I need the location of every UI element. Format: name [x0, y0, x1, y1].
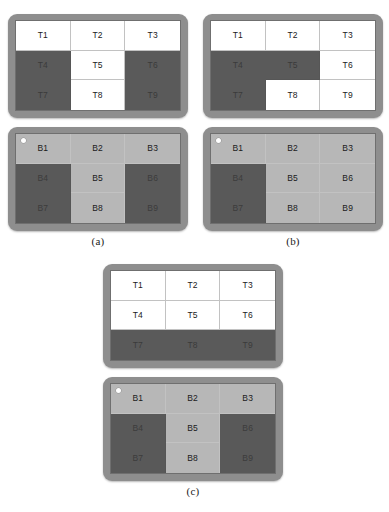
cell-t3[interactable]: T3 [125, 21, 180, 51]
cell-t7[interactable]: T7 [211, 80, 266, 110]
cell-t2[interactable]: T2 [266, 21, 321, 51]
cell-t9[interactable]: T9 [320, 80, 375, 110]
cell-b2[interactable]: B2 [166, 384, 221, 414]
cell-t1[interactable]: T1 [16, 21, 71, 51]
cell-b3[interactable]: B3 [220, 384, 275, 414]
cell-grid-a-top: T1T2T3T4T5T6T7T8T9 [16, 21, 180, 110]
screen-a-top: T1T2T3T4T5T6T7T8T9 [15, 20, 181, 111]
cell-t8[interactable]: T8 [71, 80, 126, 110]
cell-b4[interactable]: B4 [211, 164, 266, 194]
cell-b3[interactable]: B3 [320, 134, 375, 164]
cell-t9[interactable]: T9 [220, 330, 275, 360]
subfigure-c: T1T2T3T4T5T6T7T8T9B1B2B3B4B5B6B7B8B9(c) [103, 264, 283, 497]
cell-b3[interactable]: B3 [125, 134, 180, 164]
cell-t6[interactable]: T6 [220, 301, 275, 331]
cell-b8[interactable]: B8 [166, 443, 221, 473]
cell-t4[interactable]: T4 [16, 51, 71, 81]
cell-t4[interactable]: T4 [211, 51, 266, 81]
screen-b-top: T1T2T3T4T5T6T7T8T9 [210, 20, 376, 111]
cell-t8[interactable]: T8 [266, 80, 321, 110]
cell-b7[interactable]: B7 [16, 193, 71, 223]
camera-dot-icon [21, 138, 26, 143]
cell-t4[interactable]: T4 [111, 301, 166, 331]
cell-b2[interactable]: B2 [266, 134, 321, 164]
device-b-top: T1T2T3T4T5T6T7T8T9 [203, 14, 383, 118]
cell-t7[interactable]: T7 [16, 80, 71, 110]
cell-b4[interactable]: B4 [16, 164, 71, 194]
subfigure-caption-c: (c) [103, 485, 283, 497]
cell-b5[interactable]: B5 [166, 414, 221, 444]
cell-b9[interactable]: B9 [320, 193, 375, 223]
cell-b7[interactable]: B7 [211, 193, 266, 223]
cell-b5[interactable]: B5 [71, 164, 126, 194]
device-b-bottom: B1B2B3B4B5B6B7B8B9 [203, 127, 383, 231]
cell-t6[interactable]: T6 [125, 51, 180, 81]
cell-grid-a-bottom: B1B2B3B4B5B6B7B8B9 [16, 134, 180, 223]
subfigure-caption-b: (b) [203, 235, 383, 247]
cell-grid-c-top: T1T2T3T4T5T6T7T8T9 [111, 271, 275, 360]
cell-t5[interactable]: T5 [166, 301, 221, 331]
cell-grid-b-bottom: B1B2B3B4B5B6B7B8B9 [211, 134, 375, 223]
cell-t6[interactable]: T6 [320, 51, 375, 81]
cell-b6[interactable]: B6 [220, 414, 275, 444]
cell-t3[interactable]: T3 [220, 271, 275, 301]
cell-b8[interactable]: B8 [71, 193, 126, 223]
camera-dot-icon [216, 138, 221, 143]
cell-b2[interactable]: B2 [71, 134, 126, 164]
cell-b4[interactable]: B4 [111, 414, 166, 444]
device-c-top: T1T2T3T4T5T6T7T8T9 [103, 264, 283, 368]
device-c-bottom: B1B2B3B4B5B6B7B8B9 [103, 377, 283, 481]
subfigure-caption-a: (a) [8, 235, 188, 247]
figure-root: T1T2T3T4T5T6T7T8T9B1B2B3B4B5B6B7B8B9(a)T… [0, 0, 389, 512]
cell-t1[interactable]: T1 [211, 21, 266, 51]
cell-b9[interactable]: B9 [220, 443, 275, 473]
screen-b-bottom: B1B2B3B4B5B6B7B8B9 [210, 133, 376, 224]
screen-c-bottom: B1B2B3B4B5B6B7B8B9 [110, 383, 276, 474]
cell-b8[interactable]: B8 [266, 193, 321, 223]
cell-b6[interactable]: B6 [320, 164, 375, 194]
cell-t3[interactable]: T3 [320, 21, 375, 51]
cell-grid-c-bottom: B1B2B3B4B5B6B7B8B9 [111, 384, 275, 473]
cell-t7[interactable]: T7 [111, 330, 166, 360]
cell-t5[interactable]: T5 [266, 51, 321, 81]
cell-t2[interactable]: T2 [71, 21, 126, 51]
cell-t9[interactable]: T9 [125, 80, 180, 110]
device-a-top: T1T2T3T4T5T6T7T8T9 [8, 14, 188, 118]
screen-a-bottom: B1B2B3B4B5B6B7B8B9 [15, 133, 181, 224]
device-a-bottom: B1B2B3B4B5B6B7B8B9 [8, 127, 188, 231]
cell-t8[interactable]: T8 [166, 330, 221, 360]
camera-dot-icon [116, 388, 121, 393]
cell-b6[interactable]: B6 [125, 164, 180, 194]
cell-t2[interactable]: T2 [166, 271, 221, 301]
cell-t5[interactable]: T5 [71, 51, 126, 81]
subfigure-a: T1T2T3T4T5T6T7T8T9B1B2B3B4B5B6B7B8B9(a) [8, 14, 188, 247]
cell-b9[interactable]: B9 [125, 193, 180, 223]
cell-t1[interactable]: T1 [111, 271, 166, 301]
cell-b5[interactable]: B5 [266, 164, 321, 194]
cell-b7[interactable]: B7 [111, 443, 166, 473]
screen-c-top: T1T2T3T4T5T6T7T8T9 [110, 270, 276, 361]
cell-grid-b-top: T1T2T3T4T5T6T7T8T9 [211, 21, 375, 110]
subfigure-b: T1T2T3T4T5T6T7T8T9B1B2B3B4B5B6B7B8B9(b) [203, 14, 383, 247]
